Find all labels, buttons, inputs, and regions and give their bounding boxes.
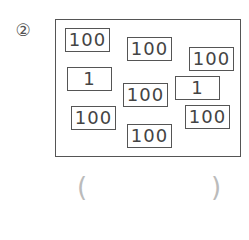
card-100: 100	[189, 47, 234, 71]
card-100: 100	[127, 124, 172, 148]
answer-blank[interactable]	[92, 175, 207, 201]
answer-open-paren: (	[77, 172, 87, 201]
card-100: 100	[185, 105, 230, 129]
card-100: 100	[127, 37, 172, 61]
card-1: 1	[67, 67, 112, 91]
problem-number: ②	[12, 20, 34, 40]
card-100: 100	[71, 106, 116, 130]
card-100: 100	[65, 28, 110, 52]
answer-close-paren: )	[211, 172, 221, 201]
card-1: 1	[175, 76, 220, 100]
card-100: 100	[123, 83, 168, 107]
